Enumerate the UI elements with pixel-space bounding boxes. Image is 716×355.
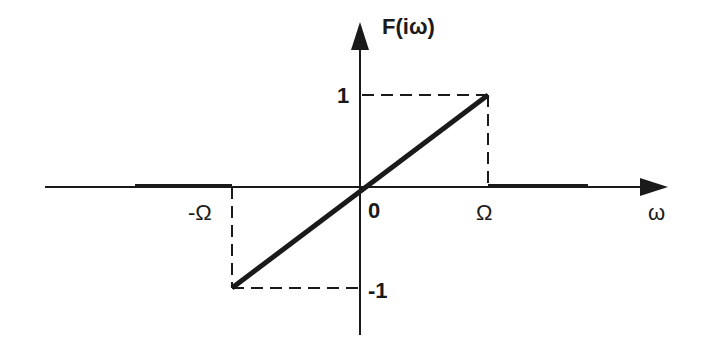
x-axis-arrow-icon	[640, 178, 668, 196]
tick-origin: 0	[368, 200, 380, 222]
x-axis-label: ω	[648, 202, 665, 224]
tick-y-neg: -1	[368, 280, 388, 302]
y-axis-arrow-icon	[351, 22, 369, 50]
diagram-canvas: F(iω) ω 1 -1 0 Ω -Ω	[0, 0, 716, 355]
y-axis-label: F(iω)	[382, 16, 435, 38]
tick-x-neg: -Ω	[188, 202, 212, 224]
tick-y-pos: 1	[337, 85, 349, 107]
frequency-response-plot	[0, 0, 716, 355]
response-curve	[135, 95, 588, 288]
tick-x-pos: Ω	[476, 202, 492, 224]
